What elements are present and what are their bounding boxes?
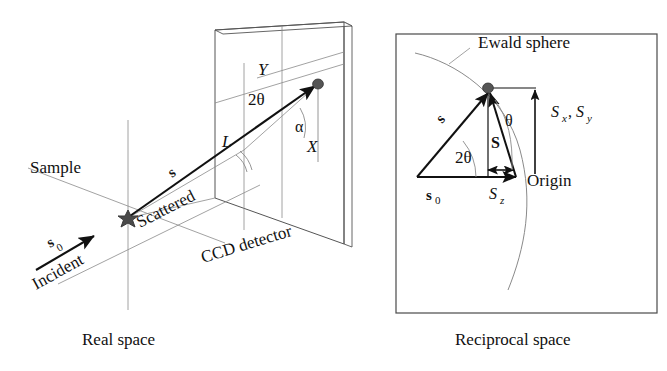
real-space-caption: Real space <box>82 330 155 349</box>
theta-label: θ <box>505 112 513 129</box>
s0-label-right: s <box>426 187 432 203</box>
sample-label: Sample <box>30 158 81 177</box>
two-theta-label-left: 2θ <box>248 90 265 109</box>
Sz-label: S <box>489 185 497 202</box>
diffraction-spot <box>313 79 324 89</box>
ewald-sphere-label: Ewald sphere <box>478 33 570 52</box>
Sy-subscript: y <box>586 112 592 124</box>
Y-label: Y <box>258 60 269 79</box>
L-label: L <box>221 132 231 151</box>
origin-label: Origin <box>527 171 572 190</box>
Sx-label: S <box>551 103 559 120</box>
alpha-label: α <box>295 118 304 135</box>
two-theta-label-right: 2θ <box>455 148 472 167</box>
diffraction-geometry-figure: Sample s 0 Incident s Scattered CCD dete… <box>0 0 667 371</box>
detector-thickness-face <box>344 22 352 247</box>
Sx-subscript: x <box>561 112 567 124</box>
Sy-label: S <box>576 103 584 120</box>
X-label: X <box>306 137 318 156</box>
Sz-subscript: z <box>499 194 505 206</box>
Sxy-comma: , <box>568 103 572 120</box>
S-vector-label: S <box>491 134 500 151</box>
s0-subscript-right: 0 <box>435 194 441 206</box>
reciprocal-space-caption: Reciprocal space <box>455 330 571 349</box>
reciprocal-lattice-point <box>483 83 494 93</box>
